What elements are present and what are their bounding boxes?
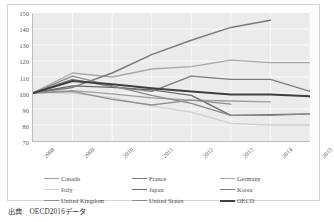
legend-line-icon bbox=[44, 200, 59, 201]
legend-item[interactable]: Japan bbox=[132, 184, 218, 195]
legend-item-label: Germany bbox=[237, 175, 261, 182]
legend-item-label: Italy bbox=[61, 186, 73, 193]
x-axis-tick-label: 2008 bbox=[43, 145, 57, 159]
chart-legend: CanadaFranceGermanyItalyJapanKoreaUnited… bbox=[44, 173, 306, 206]
legend-item[interactable]: Canada bbox=[44, 173, 130, 184]
legend-item-label: OECD bbox=[237, 197, 254, 204]
source-caption: 出典 OECD2016データ bbox=[8, 206, 87, 216]
legend-line-icon bbox=[132, 189, 147, 190]
y-axis-tick-label: 90 bbox=[23, 106, 29, 113]
legend-item-label: United States bbox=[149, 197, 183, 204]
y-axis-tick-label: 110 bbox=[20, 74, 29, 81]
legend-item-label: United Kingdom bbox=[61, 197, 104, 204]
plot-area-wrapper bbox=[32, 13, 310, 142]
legend-item[interactable]: France bbox=[132, 173, 218, 184]
x-axis-tick-label: 2015 bbox=[321, 145, 334, 159]
legend-line-icon bbox=[44, 189, 59, 190]
y-axis-tick-label: 70 bbox=[23, 139, 29, 146]
legend-item[interactable]: United Kingdom bbox=[44, 195, 130, 206]
y-axis-tick-label: 100 bbox=[19, 90, 29, 97]
x-axis-tick-label: 2014 bbox=[281, 145, 295, 159]
y-axis-tick-label: 150 bbox=[19, 10, 29, 17]
legend-item[interactable]: Germany bbox=[220, 173, 306, 184]
legend-line-icon bbox=[132, 200, 147, 201]
legend-item-label: Korea bbox=[237, 186, 253, 193]
legend-line-icon bbox=[220, 189, 235, 190]
series-line bbox=[33, 93, 310, 125]
y-axis-tick-label: 130 bbox=[19, 42, 29, 49]
x-axis: 20082009201020112012201320142015 bbox=[32, 143, 310, 169]
legend-item-label: Japan bbox=[149, 186, 164, 193]
chart-figure: 708090100110120130140150 200820092010201… bbox=[7, 4, 320, 201]
y-axis: 708090100110120130140150 bbox=[8, 13, 29, 142]
legend-item-label: Canada bbox=[61, 175, 80, 182]
legend-item[interactable]: OECD bbox=[220, 195, 306, 206]
source-label: 出典 bbox=[8, 208, 22, 216]
legend-line-icon bbox=[220, 200, 235, 202]
x-axis-tick-label: 2009 bbox=[82, 145, 96, 159]
plot-area bbox=[32, 13, 310, 142]
y-axis-tick-label: 140 bbox=[19, 26, 29, 33]
y-axis-tick-label: 120 bbox=[19, 58, 29, 65]
legend-line-icon bbox=[44, 178, 59, 179]
source-text: OECD2016データ bbox=[29, 208, 86, 216]
legend-item[interactable]: Korea bbox=[220, 184, 306, 195]
legend-line-icon bbox=[132, 178, 147, 179]
legend-item[interactable]: Italy bbox=[44, 184, 130, 195]
legend-item[interactable]: United States bbox=[132, 195, 218, 206]
y-axis-tick-label: 80 bbox=[23, 122, 29, 129]
legend-item-label: France bbox=[149, 175, 166, 182]
x-axis-tick-label: 2010 bbox=[122, 145, 136, 159]
x-axis-tick-label: 2013 bbox=[241, 145, 255, 159]
legend-line-icon bbox=[220, 178, 235, 179]
x-axis-tick-label: 2012 bbox=[201, 145, 215, 159]
data-lines bbox=[33, 13, 310, 141]
series-line bbox=[33, 91, 270, 102]
x-axis-tick-label: 2011 bbox=[162, 145, 176, 159]
